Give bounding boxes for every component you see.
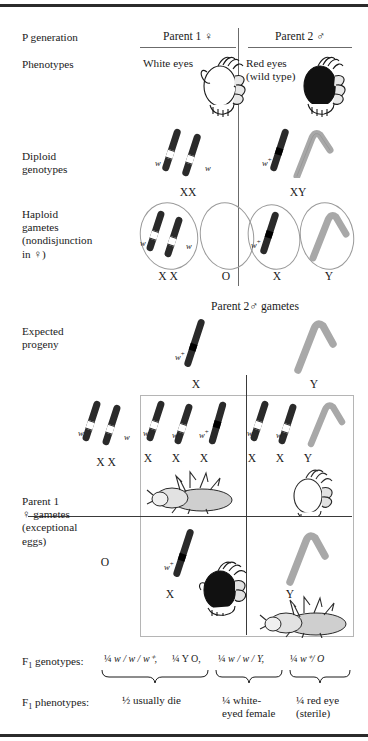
- f1-genotype-4: ¼ w⁺/ O: [290, 653, 324, 664]
- diploid-label-p2: XY: [268, 186, 328, 199]
- gamete-label-o: O: [196, 270, 256, 283]
- label-expected-progeny: Expected progeny: [22, 325, 64, 351]
- allele-label-col-x: w+: [175, 350, 185, 362]
- punnett-row-label-xx: X X: [76, 456, 136, 469]
- allele-label-g1-b: w: [186, 241, 192, 251]
- label-phenotypes: Phenotypes: [22, 58, 74, 71]
- f1-phenotype-2-fraction: ¼: [222, 694, 230, 706]
- rule-parent2: [248, 47, 352, 48]
- f1-genotype-2-fraction: ¼: [172, 653, 180, 664]
- allele-label-p2: w+: [262, 156, 272, 168]
- cell3-label-x: X: [162, 588, 178, 601]
- phenotype-parent2: Red eyes (wild type): [246, 57, 295, 83]
- dead-fly-illustration-cell4: [258, 594, 354, 638]
- f1-phenotype-2: ¼ white- eyed female: [222, 694, 275, 719]
- gamete-oval-x-plus: [242, 199, 307, 274]
- gamete-label-y: Y: [304, 270, 354, 283]
- header-parent1: Parent 1 ♀: [140, 30, 236, 43]
- chromosome-y-p2: [292, 126, 334, 178]
- label-f1-genotypes: F1 genotypes:: [22, 655, 84, 672]
- cell1-allele-b: w: [172, 430, 178, 440]
- label-haploid-gametes: Haploid gametes (nondisjunction in ♀): [22, 208, 92, 261]
- chromosome-y-g2: [308, 208, 350, 262]
- punnett-column-header: Parent 2♂ gametes: [155, 300, 355, 313]
- dead-fly-illustration-cell1: [146, 468, 242, 514]
- f1-phenotype-1: ½ usually die: [122, 694, 181, 706]
- f1-genotype-3-fraction: ¼: [218, 653, 226, 664]
- f1-phenotype-2-text: white- eyed female: [222, 694, 275, 719]
- cell1-allele-c: w+: [199, 428, 209, 440]
- cell2-label-x2: X: [272, 452, 288, 465]
- f1-genotype-2-value: Y O,: [182, 653, 201, 664]
- label-p-generation: P generation: [22, 31, 78, 44]
- cell2-allele-b: w: [276, 430, 282, 440]
- f1-genotype-1: ¼ w / w / w⁺,: [104, 653, 157, 664]
- fly-head-red-eye: [296, 52, 350, 118]
- rule-parent1: [140, 47, 236, 48]
- cell1-label-x2: X: [168, 452, 184, 465]
- allele-label-p1-a: w: [155, 158, 161, 168]
- top-rule: [0, 4, 368, 7]
- red-eyed-fly-cell3: [198, 556, 258, 616]
- allele-label-row-b: w: [124, 432, 130, 442]
- figure-root: P generation Parent 1 ♀ Parent 2 ♂ Pheno…: [0, 0, 368, 741]
- cell2-label-x1: X: [244, 452, 260, 465]
- label-diploid-genotypes: Diploid genotypes: [22, 150, 67, 176]
- cell1-label-x3: X: [196, 452, 212, 465]
- gamete-label-x: X: [252, 270, 302, 283]
- chromosome-col-y: [292, 316, 338, 374]
- f1-phenotype-1-text: usually die: [133, 694, 181, 706]
- f1-genotype-1-fraction: ¼: [104, 653, 112, 664]
- f1-phenotype-3-fraction: ¼: [296, 694, 304, 706]
- gamete-label-xx: X X: [138, 270, 198, 283]
- f1-phenotype-3: ¼ red eye (sterile): [296, 694, 339, 719]
- cell1-label-x1: X: [140, 452, 156, 465]
- f1-genotype-3-value: w / w / Y,: [228, 653, 264, 664]
- f1-phenotype-1-fraction: ½: [122, 694, 130, 706]
- punnett-col-label-y: Y: [290, 378, 338, 391]
- header-parent2: Parent 2 ♂: [248, 30, 352, 43]
- label-f1-phenotypes: F1 phenotypes:: [22, 696, 89, 713]
- cell3-allele: w+: [164, 560, 174, 572]
- brace-group-2: [214, 668, 284, 684]
- label-parent1-gametes: Parent 1 ♀ gametes (exceptional eggs): [22, 495, 77, 548]
- allele-label-row-a: w: [78, 428, 84, 438]
- cell1-allele-a: w: [143, 428, 149, 438]
- punnett-row-label-o: O: [80, 556, 130, 569]
- brace-group-3: [288, 668, 352, 684]
- f1-genotype-4-value: w⁺/ O: [300, 653, 324, 664]
- cell2-label-y: Y: [300, 452, 316, 465]
- diploid-label-p1: XX: [158, 186, 218, 199]
- phenotype-parent1: White eyes: [143, 57, 193, 70]
- f1-genotype-3: ¼ w / w / Y,: [218, 653, 264, 664]
- brace-group-1: [100, 668, 210, 684]
- cell2-allele-a: w: [247, 428, 253, 438]
- allele-label-p1-b: w: [205, 163, 211, 173]
- cell2-chromosome-y: [306, 398, 346, 448]
- allele-label-g2: w+: [251, 238, 261, 250]
- f1-genotype-4-fraction: ¼: [290, 653, 298, 664]
- punnett-col-label-x: X: [172, 378, 220, 391]
- f1-genotype-2: ¼ Y O,: [172, 653, 201, 664]
- f1-genotype-1-value: w / w / w⁺,: [114, 653, 157, 664]
- bottom-rule: [0, 734, 368, 737]
- white-eyed-female-fly-cell2: [288, 466, 346, 516]
- cell4-chromosome-y: [284, 528, 330, 586]
- allele-label-g1-a: w: [140, 238, 146, 248]
- fly-head-white-eye: [196, 52, 250, 118]
